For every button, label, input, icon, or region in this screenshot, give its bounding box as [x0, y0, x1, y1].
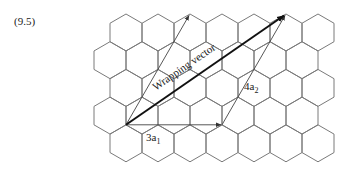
hexagon-cell — [174, 125, 206, 162]
label-3a1: 3a1 — [146, 131, 160, 146]
hexagon-cell — [206, 125, 238, 162]
hexagon-cell — [238, 125, 270, 162]
label-3a1-sub: 1 — [156, 137, 160, 146]
label-4a2-main: 4a — [244, 80, 255, 92]
label-4a2: 4a2 — [244, 80, 258, 95]
hexagon-cell — [126, 42, 158, 79]
hexagon-cell — [302, 69, 334, 106]
hexagon-cell — [238, 14, 270, 51]
hexagon-cell — [206, 69, 238, 106]
hex-grid — [94, 14, 334, 162]
hexagon-cell — [110, 69, 142, 106]
label-3a1-main: 3a — [146, 131, 157, 143]
hexagonal-lattice-diagram: 3a1 4a2 Wrapping vector — [0, 0, 351, 170]
hexagon-cell — [142, 14, 174, 51]
hexagon-cell — [270, 125, 302, 162]
hexagon-cell — [302, 125, 334, 162]
hexagon-cell — [286, 97, 318, 134]
wrapping-vector — [126, 16, 284, 125]
hexagon-cell — [270, 69, 302, 106]
hexagon-cell — [254, 97, 286, 134]
hexagon-cell — [94, 97, 126, 134]
hexagon-cell — [190, 97, 222, 134]
hexagon-cell — [302, 14, 334, 51]
hexagon-cell — [158, 97, 190, 134]
label-4a2-sub: 2 — [254, 86, 258, 95]
hexagon-cell — [94, 42, 126, 79]
hexagon-cell — [110, 14, 142, 51]
hexagon-cell — [286, 42, 318, 79]
hexagon-cell — [110, 125, 142, 162]
